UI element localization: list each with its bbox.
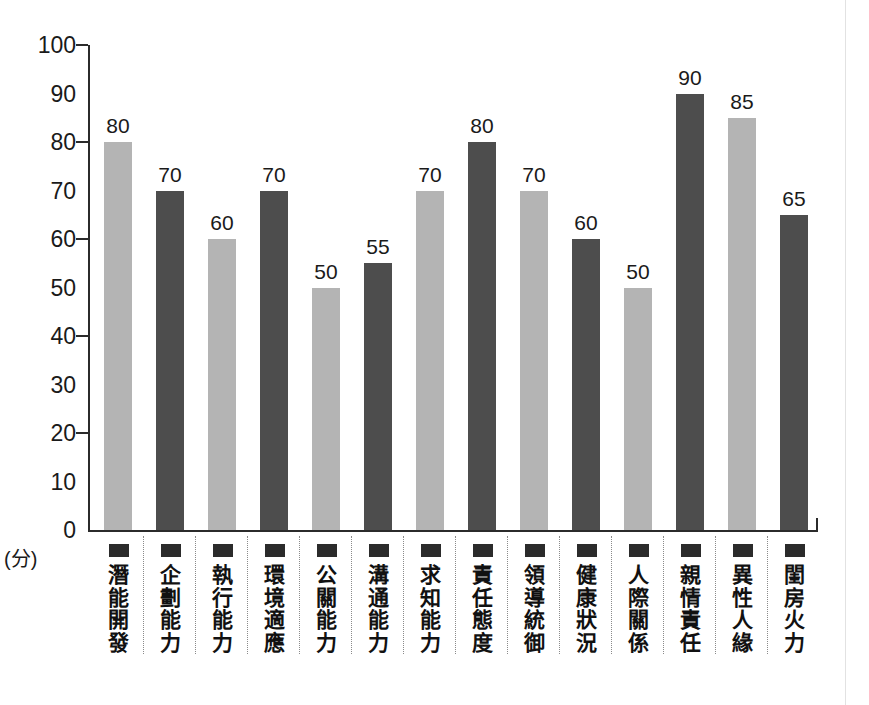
- x-axis-category: 執行能力: [196, 534, 248, 699]
- y-axis-tick-label: 20: [14, 422, 76, 445]
- x-axis-category: 健康狀況: [560, 534, 612, 699]
- bar-value-label: 70: [144, 164, 196, 185]
- category-label: 親情責任: [664, 564, 716, 654]
- category-label: 閨房火力: [768, 564, 820, 654]
- bar[interactable]: [416, 191, 444, 531]
- category-label: 責任態度: [456, 564, 508, 654]
- category-label: 領導統御: [508, 564, 560, 654]
- plot-area: 1009080706050403020100 80706070505570807…: [88, 45, 818, 532]
- category-marker-icon: [785, 544, 805, 557]
- y-axis-tick-mark: [76, 335, 88, 337]
- category-label: 環境適應: [248, 564, 300, 654]
- category-label: 潛能開發: [92, 564, 144, 654]
- bar-value-label: 70: [248, 164, 300, 185]
- bar-slot: 60: [196, 43, 248, 530]
- bar-slot: 80: [456, 43, 508, 530]
- y-axis-line: [88, 45, 90, 532]
- bar-slot: 70: [144, 43, 196, 530]
- bar-value-label: 50: [300, 261, 352, 282]
- y-axis-tick-mark: [76, 432, 88, 434]
- y-axis-tick-label: 10: [14, 471, 76, 494]
- y-axis-tick-label: 80: [14, 131, 76, 154]
- category-marker-icon: [473, 544, 493, 557]
- y-axis-tick-label: 0: [14, 519, 76, 542]
- x-axis-category-labels: 潛能開發企劃能力執行能力環境適應公關能力溝通能力求知能力責任態度領導統御健康狀況…: [88, 534, 818, 699]
- bar[interactable]: [520, 191, 548, 531]
- bar-value-label: 70: [508, 164, 560, 185]
- bar-slot: 80: [92, 43, 144, 530]
- category-marker-icon: [421, 544, 441, 557]
- bar-value-label: 80: [92, 115, 144, 136]
- category-marker-icon: [681, 544, 701, 557]
- x-axis-category: 溝通能力: [352, 534, 404, 699]
- bar[interactable]: [676, 94, 704, 531]
- bar-slot: 70: [404, 43, 456, 530]
- x-axis-category: 閨房火力: [768, 534, 820, 699]
- y-axis-tick-label: 50: [14, 277, 76, 300]
- category-marker-icon: [369, 544, 389, 557]
- bar-slot: 70: [508, 43, 560, 530]
- category-marker-icon: [161, 544, 181, 557]
- x-axis-category: 公關能力: [300, 534, 352, 699]
- bar-value-label: 70: [404, 164, 456, 185]
- category-label: 人際關係: [612, 564, 664, 654]
- category-marker-icon: [629, 544, 649, 557]
- x-axis-category: 企劃能力: [144, 534, 196, 699]
- y-axis-tick-label: 60: [14, 228, 76, 251]
- bar-slot: 50: [300, 43, 352, 530]
- category-label: 求知能力: [404, 564, 456, 654]
- category-marker-icon: [265, 544, 285, 557]
- y-axis-unit-label: (分): [4, 543, 37, 572]
- bar-value-label: 90: [664, 67, 716, 88]
- y-axis-tick-mark: [76, 238, 88, 240]
- page-border-right: [845, 0, 846, 705]
- y-axis-tick-label: 70: [14, 180, 76, 203]
- category-label: 公關能力: [300, 564, 352, 654]
- y-axis-tick-label: 40: [14, 325, 76, 348]
- bar-slot: 60: [560, 43, 612, 530]
- x-axis-category: 人際關係: [612, 534, 664, 699]
- bar-value-label: 65: [768, 188, 820, 209]
- bar-slot: 50: [612, 43, 664, 530]
- bar[interactable]: [104, 142, 132, 530]
- x-axis-category: 環境適應: [248, 534, 300, 699]
- category-marker-icon: [317, 544, 337, 557]
- bar[interactable]: [156, 191, 184, 531]
- x-axis-category: 領導統御: [508, 534, 560, 699]
- bar-slot: 65: [768, 43, 820, 530]
- category-label: 企劃能力: [144, 564, 196, 654]
- bar-value-label: 50: [612, 261, 664, 282]
- bar[interactable]: [728, 118, 756, 530]
- bar[interactable]: [312, 288, 340, 531]
- bar[interactable]: [572, 239, 600, 530]
- y-axis-tick-mark: [76, 44, 88, 46]
- category-label: 異性人緣: [716, 564, 768, 654]
- bar[interactable]: [208, 239, 236, 530]
- bar-slot: 55: [352, 43, 404, 530]
- bar[interactable]: [624, 288, 652, 531]
- category-label: 溝通能力: [352, 564, 404, 654]
- x-axis-category: 異性人緣: [716, 534, 768, 699]
- y-axis-tick-label: 90: [14, 83, 76, 106]
- bar[interactable]: [468, 142, 496, 530]
- category-marker-icon: [525, 544, 545, 557]
- category-label: 執行能力: [196, 564, 248, 654]
- y-axis-tick-label: 100: [14, 34, 76, 57]
- x-axis-category: 求知能力: [404, 534, 456, 699]
- category-marker-icon: [213, 544, 233, 557]
- category-label: 健康狀況: [560, 564, 612, 654]
- bar[interactable]: [364, 263, 392, 530]
- x-axis-line: [88, 530, 818, 532]
- chart-page: 1009080706050403020100 80706070505570807…: [0, 0, 869, 705]
- bar-value-label: 80: [456, 115, 508, 136]
- bar-value-label: 85: [716, 91, 768, 112]
- bar-value-label: 60: [196, 212, 248, 233]
- bar-value-label: 55: [352, 236, 404, 257]
- bar-slot: 85: [716, 43, 768, 530]
- category-marker-icon: [733, 544, 753, 557]
- category-marker-icon: [577, 544, 597, 557]
- category-marker-icon: [109, 544, 129, 557]
- bar-slot: 70: [248, 43, 300, 530]
- bar[interactable]: [260, 191, 288, 531]
- bar[interactable]: [780, 215, 808, 530]
